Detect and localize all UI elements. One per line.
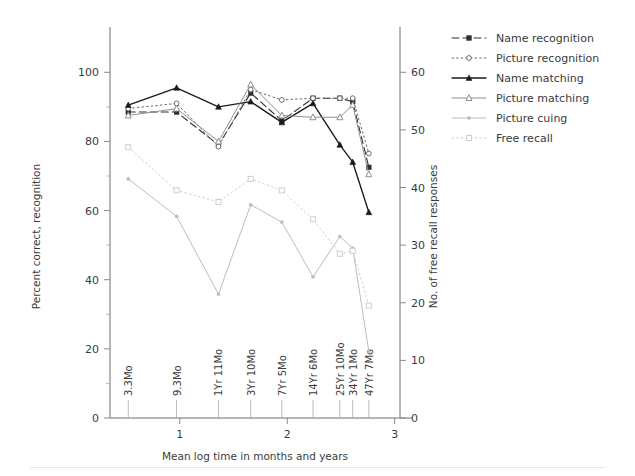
legend-item-picture-recognition[interactable]: Picture recognition (452, 52, 599, 65)
y-axis-right-tick-label: 30 (411, 239, 425, 252)
category-label: 47Yr 7Mo (364, 349, 375, 396)
legend-label: Name matching (496, 72, 584, 85)
legend-marker (467, 36, 472, 41)
legend-label: Name recognition (496, 32, 594, 45)
data-point-marker (366, 151, 371, 156)
series-line (128, 147, 369, 305)
y-axis-right-tick-label: 20 (411, 297, 425, 310)
data-point-marker (337, 251, 342, 256)
series-picture-cuing (127, 177, 371, 353)
y-axis-left-tick-label: 40 (85, 274, 99, 287)
legend-item-free-recall[interactable]: Free recall (452, 132, 553, 145)
data-point-marker (248, 176, 253, 181)
category-label: 3.3Mo (123, 365, 134, 396)
data-point-marker (366, 303, 371, 308)
y-axis-left-title: Percent correct, recognition (30, 164, 42, 309)
x-axis-tick-label: 3 (391, 428, 398, 441)
data-point-marker (249, 203, 252, 206)
y-axis-left-tick-label: 80 (85, 135, 99, 148)
y-axis-right-title: No. of free recall responses (427, 165, 439, 308)
x-axis-title: Mean log time in months and years (162, 450, 348, 462)
footer-divider (30, 467, 605, 468)
data-point-marker (350, 96, 355, 101)
data-point-marker (366, 171, 372, 177)
data-point-marker (127, 177, 130, 180)
y-axis-left-tick-label: 60 (85, 205, 99, 218)
data-point-marker (350, 248, 355, 253)
y-axis-right-tick-label: 0 (411, 412, 418, 425)
data-point-marker (310, 100, 316, 106)
line-chart: 02040608010001020304050601233.3Mo9.3Mo1Y… (0, 0, 635, 476)
category-label: 1Yr 11Mo (213, 349, 224, 396)
data-point-marker (337, 96, 342, 101)
series-name-matching (125, 85, 371, 215)
legend-marker (467, 136, 472, 141)
data-point-marker (216, 144, 221, 149)
category-label: 14Yr 6Mo (308, 349, 319, 396)
data-point-marker (366, 209, 372, 215)
y-axis-left-tick-label: 100 (78, 66, 99, 79)
data-point-marker (126, 145, 131, 150)
x-axis-tick-label: 2 (284, 428, 291, 441)
data-point-marker (311, 217, 316, 222)
data-point-marker (174, 85, 180, 91)
legend-marker (467, 116, 470, 119)
data-point-marker (279, 188, 284, 193)
data-point-marker (279, 98, 284, 103)
y-axis-right-tick-label: 40 (411, 182, 425, 195)
data-point-marker (280, 220, 283, 223)
legend-item-name-matching[interactable]: Name matching (452, 72, 584, 85)
data-point-marker (338, 235, 341, 238)
x-axis-tick-label: 1 (176, 428, 183, 441)
series-line (128, 179, 369, 352)
legend-item-name-recognition[interactable]: Name recognition (452, 32, 594, 45)
y-axis-right-tick-label: 50 (411, 124, 425, 137)
series-free-recall (126, 145, 372, 308)
legend-label: Picture recognition (496, 52, 599, 65)
legend-marker (467, 56, 472, 61)
category-label: 25Yr 10Mo (335, 342, 346, 396)
legend-label: Picture matching (496, 92, 589, 105)
legend-item-picture-matching[interactable]: Picture matching (452, 92, 589, 105)
data-point-marker (216, 199, 221, 204)
y-axis-right-tick-label: 60 (411, 66, 425, 79)
category-label: 9.3Mo (172, 365, 183, 396)
data-point-marker (175, 215, 178, 218)
legend-item-picture-cuing[interactable]: Picture cuing (452, 112, 567, 125)
chart-figure: 02040608010001020304050601233.3Mo9.3Mo1Y… (0, 0, 635, 476)
category-label: 3Yr 10Mo (246, 349, 257, 396)
data-point-marker (367, 350, 370, 353)
legend-label: Free recall (496, 132, 553, 145)
category-label: 7Yr 5Mo (277, 355, 288, 396)
data-point-marker (311, 275, 314, 278)
series-line (128, 90, 369, 154)
legend-label: Picture cuing (496, 112, 567, 125)
data-point-marker (217, 293, 220, 296)
data-point-marker (248, 81, 254, 87)
y-axis-right-tick-label: 10 (411, 354, 425, 367)
data-point-marker (174, 188, 179, 193)
series-line (128, 88, 369, 212)
category-label: 34Yr 1Mo (348, 349, 359, 396)
y-axis-left-tick-label: 20 (85, 343, 99, 356)
y-axis-left-tick-label: 0 (92, 412, 99, 425)
